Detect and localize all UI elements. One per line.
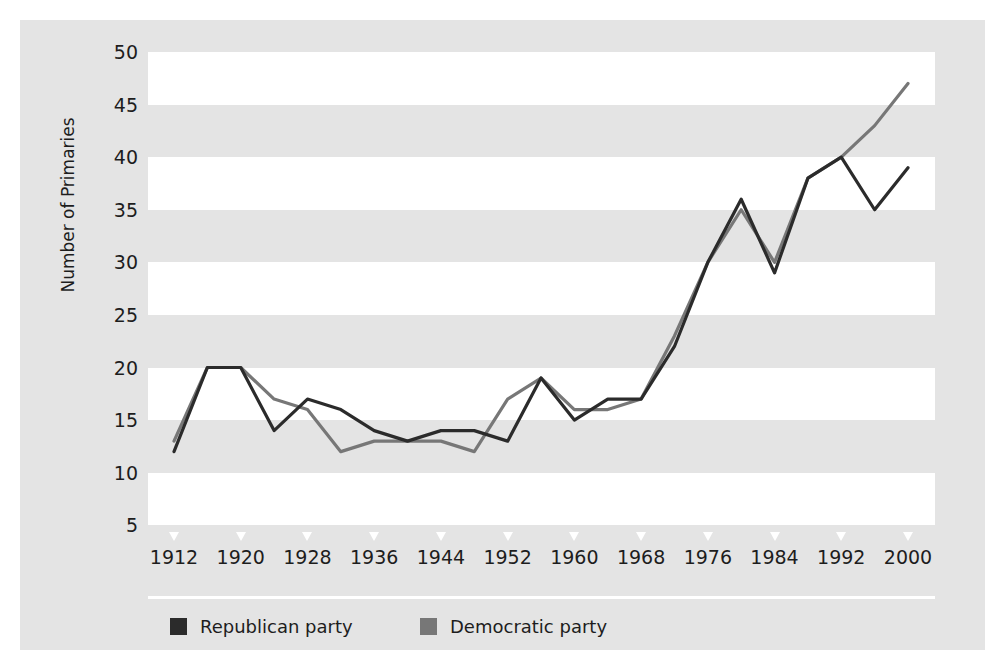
legend-divider-rule <box>148 596 935 599</box>
legend-item-label: Democratic party <box>450 616 607 637</box>
x-axis-tick-label: 1944 <box>417 546 465 568</box>
x-axis-tick-label: 1960 <box>550 546 598 568</box>
y-axis-tick-label: 5 <box>100 516 138 535</box>
x-axis-tick-label: 1992 <box>817 546 865 568</box>
y-axis-tick-label: 50 <box>100 43 138 62</box>
legend-item[interactable]: Democratic party <box>420 616 607 637</box>
plot-area <box>148 52 935 530</box>
y-axis-tick-label: 40 <box>100 148 138 167</box>
x-axis-tick-label: 1976 <box>684 546 732 568</box>
x-axis-tick-mark <box>703 532 713 541</box>
y-axis-title: Number of Primaries <box>58 95 78 315</box>
x-axis-tick-mark <box>836 532 846 541</box>
x-axis-tick-mark <box>636 532 646 541</box>
x-axis: 1912192019281936194419521960196819761984… <box>148 530 935 590</box>
x-axis-tick-mark <box>302 532 312 541</box>
legend-item-label: Republican party <box>200 616 353 637</box>
x-axis-tick-label: 1928 <box>283 546 331 568</box>
y-axis-tick-label: 25 <box>100 305 138 324</box>
y-axis-tick-label: 10 <box>100 463 138 482</box>
chart-legend: Republican partyDemocratic party <box>148 616 935 652</box>
x-axis-tick-label: 1936 <box>350 546 398 568</box>
x-axis-tick-label: 1920 <box>217 546 265 568</box>
x-axis-tick-label: 1968 <box>617 546 665 568</box>
x-axis-tick-mark <box>169 532 179 541</box>
data-series-group <box>148 52 935 530</box>
x-axis-tick-label: 2000 <box>884 546 932 568</box>
y-axis-tick-label: 45 <box>100 95 138 114</box>
y-axis-tick-labels: 5045403530252015105 <box>86 52 138 530</box>
x-axis-tick-label: 1912 <box>150 546 198 568</box>
x-axis-tick-mark <box>236 532 246 541</box>
chart-figure: Number of Primaries 5045403530252015105 … <box>20 20 985 650</box>
x-axis-tick-label: 1952 <box>483 546 531 568</box>
y-axis-tick-label: 20 <box>100 358 138 377</box>
legend-item[interactable]: Republican party <box>170 616 353 637</box>
data-series-line <box>174 84 908 452</box>
x-axis-tick-mark <box>770 532 780 541</box>
x-axis-tick-mark <box>903 532 913 541</box>
x-axis-tick-label: 1984 <box>750 546 798 568</box>
y-axis-tick-label: 35 <box>100 200 138 219</box>
x-axis-tick-mark <box>503 532 513 541</box>
y-axis-tick-label: 15 <box>100 411 138 430</box>
x-axis-tick-mark <box>569 532 579 541</box>
x-axis-tick-mark <box>369 532 379 541</box>
legend-swatch-icon <box>420 618 437 635</box>
y-axis-tick-label: 30 <box>100 253 138 272</box>
x-axis-tick-mark <box>436 532 446 541</box>
legend-swatch-icon <box>170 618 187 635</box>
